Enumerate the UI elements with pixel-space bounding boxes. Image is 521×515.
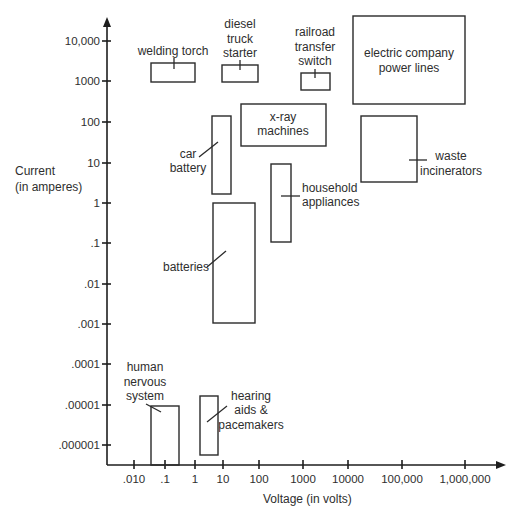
x-axis: .010 .1 1 10 100 1000 10000 100,000 1,00… xyxy=(107,460,506,506)
label-xray-line2: machines xyxy=(257,124,308,138)
x-tick-label: 10 xyxy=(217,473,230,485)
label-hearing-line1: hearing xyxy=(231,389,271,403)
region-car-battery: car battery xyxy=(170,116,231,194)
label-diesel-line3: starter xyxy=(223,46,257,60)
label-railroad-line3: switch xyxy=(298,54,331,68)
x-tick-label: 1,000,000 xyxy=(439,473,490,485)
region-hearing-aids-pacemakers: hearing aids & pacemakers xyxy=(200,389,284,455)
region-railroad-transfer-switch: railroad transfer switch xyxy=(295,25,336,90)
x-tick-label: 10000 xyxy=(332,473,364,485)
y-tick-label: 10 xyxy=(87,157,100,169)
region-diesel-truck-starter: diesel truck starter xyxy=(222,17,258,82)
x-tick-label: 1000 xyxy=(290,473,316,485)
region-household-appliances: household appliances xyxy=(271,164,359,242)
label-household-line1: household xyxy=(302,181,357,195)
x-tick-label: .1 xyxy=(160,473,170,485)
label-welding-torch: welding torch xyxy=(137,44,209,58)
x-tick-label: 1 xyxy=(192,473,198,485)
label-railroad-line2: transfer xyxy=(295,40,336,54)
y-axis: 10,000 1000 100 10 1 .1 .01 .001 .0001 .… xyxy=(15,17,111,465)
y-tick-label: .1 xyxy=(90,237,100,249)
label-hearing-line3: pacemakers xyxy=(218,418,283,432)
label-hearing-line2: aids & xyxy=(234,403,267,417)
region-waste-incinerators: waste incinerators xyxy=(361,116,482,182)
region-xray-machines: x-ray machines xyxy=(241,104,326,146)
y-tick-label: 1000 xyxy=(74,75,100,87)
label-nervous-line3: system xyxy=(126,389,164,403)
label-car-line2: battery xyxy=(170,161,207,175)
x-axis-arrow-icon xyxy=(496,461,506,469)
y-axis-arrow-icon xyxy=(103,17,111,27)
y-tick-label: 1 xyxy=(94,197,100,209)
region-human-nervous-system: human nervous system xyxy=(124,360,179,465)
y-tick-label: .001 xyxy=(78,318,100,330)
y-tick-label: 10,000 xyxy=(65,35,100,47)
label-diesel-line2: truck xyxy=(227,32,254,46)
x-axis-title: Voltage (in volts) xyxy=(263,492,352,506)
label-power-line1: electric company xyxy=(364,46,454,60)
x-tick-label: 100,000 xyxy=(381,473,423,485)
label-nervous-line2: nervous xyxy=(124,375,167,389)
label-batteries: batteries xyxy=(163,260,209,274)
region-batteries: batteries xyxy=(163,203,255,323)
label-xray-line1: x-ray xyxy=(270,110,297,124)
y-axis-title: Current xyxy=(15,164,56,178)
y-tick-label: .000001 xyxy=(58,439,100,451)
label-waste-line1: waste xyxy=(434,149,467,163)
label-waste-line2: incinerators xyxy=(420,164,482,178)
x-tick-label: 100 xyxy=(249,473,268,485)
label-nervous-line1: human xyxy=(127,360,164,374)
label-diesel-line1: diesel xyxy=(224,17,255,31)
voltage-current-diagram: 10,000 1000 100 10 1 .1 .01 .001 .0001 .… xyxy=(0,0,521,515)
label-car-line1: car xyxy=(180,147,197,161)
region-power-lines: electric company power lines xyxy=(353,16,465,104)
label-household-line2: appliances xyxy=(302,195,359,209)
y-tick-label: .0001 xyxy=(71,358,100,370)
x-tick-label: .010 xyxy=(123,473,145,485)
label-railroad-line1: railroad xyxy=(295,25,335,39)
y-tick-label: .01 xyxy=(84,278,100,290)
y-axis-title: (in amperes) xyxy=(15,180,82,194)
label-power-line2: power lines xyxy=(379,61,440,75)
region-welding-torch: welding torch xyxy=(137,44,209,82)
y-tick-label: 100 xyxy=(81,116,100,128)
y-tick-label: .00001 xyxy=(65,399,100,411)
